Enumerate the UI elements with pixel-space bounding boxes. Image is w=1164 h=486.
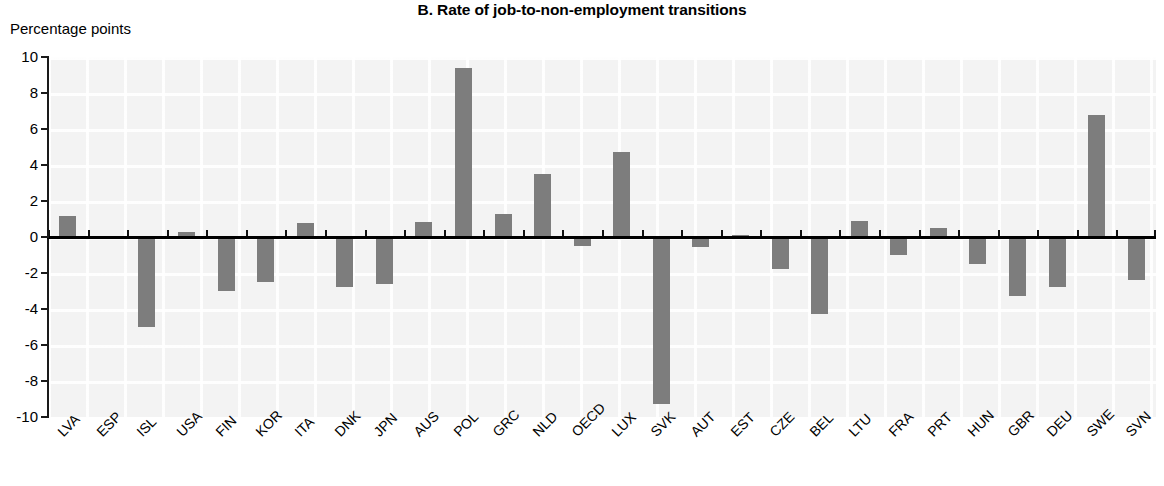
bar bbox=[218, 237, 235, 291]
bar bbox=[376, 237, 393, 284]
chart-title: B. Rate of job-to-non-employment transit… bbox=[0, 1, 1164, 19]
y-axis-tick-label: -6 bbox=[25, 337, 38, 352]
y-axis-tick-label: -4 bbox=[25, 301, 38, 316]
bar bbox=[455, 68, 472, 237]
bar bbox=[1049, 237, 1066, 287]
chart-figure: B. Rate of job-to-non-employment transit… bbox=[0, 0, 1164, 486]
y-axis-tick bbox=[41, 56, 49, 58]
x-axis-category-label: ISL bbox=[134, 414, 159, 439]
bar bbox=[890, 237, 907, 255]
x-axis-category-label: ITA bbox=[292, 414, 317, 439]
y-axis-tick-label: 10 bbox=[21, 49, 38, 64]
bar bbox=[969, 237, 986, 264]
y-axis-tick-label: 8 bbox=[30, 85, 38, 100]
y-axis-tick bbox=[41, 200, 49, 202]
y-axis-unit-label: Percentage points bbox=[10, 20, 131, 37]
bar bbox=[772, 237, 789, 269]
y-axis-tick bbox=[41, 308, 49, 310]
bar bbox=[415, 222, 432, 237]
bar bbox=[297, 223, 314, 237]
y-axis-tick-label: 6 bbox=[30, 121, 38, 136]
y-axis-tick-label: 4 bbox=[30, 157, 38, 172]
y-axis-tick bbox=[41, 128, 49, 130]
y-axis-tick-label: 0 bbox=[30, 229, 38, 244]
y-axis-tick bbox=[41, 92, 49, 94]
zero-baseline bbox=[47, 236, 1156, 239]
bar bbox=[336, 237, 353, 287]
bar bbox=[257, 237, 274, 282]
bar bbox=[811, 237, 828, 314]
bar bbox=[1009, 237, 1026, 296]
bar bbox=[534, 174, 551, 237]
y-axis-tick bbox=[41, 416, 49, 418]
y-axis-tick bbox=[41, 164, 49, 166]
y-axis-tick-label: -2 bbox=[25, 265, 38, 280]
bar bbox=[1128, 237, 1145, 280]
y-axis-tick bbox=[41, 380, 49, 382]
bar bbox=[1088, 115, 1105, 237]
y-axis-tick-label: -8 bbox=[25, 373, 38, 388]
bar bbox=[653, 237, 670, 404]
y-axis-tick bbox=[41, 272, 49, 274]
y-axis-tick bbox=[41, 344, 49, 346]
bar bbox=[138, 237, 155, 327]
y-axis-tick-label: -10 bbox=[16, 409, 38, 424]
y-axis-tick-label: 2 bbox=[30, 193, 38, 208]
bar bbox=[851, 221, 868, 237]
bar bbox=[59, 216, 76, 237]
bar bbox=[495, 214, 512, 237]
y-axis-tick bbox=[41, 236, 49, 238]
bar bbox=[613, 152, 630, 237]
